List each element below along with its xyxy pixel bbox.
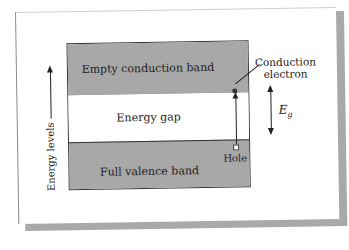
- diagram-stage: Energy levels Empty conduction band Ener…: [0, 0, 349, 250]
- gap-energy-label: Eg: [278, 103, 292, 120]
- hole-label: Hole: [223, 152, 247, 163]
- energy-gap: Energy gap: [68, 92, 249, 142]
- valence-band: Full valence band: [69, 139, 250, 189]
- energy-gap-label: Energy gap: [116, 110, 180, 124]
- conduction-electron-line2: electron: [255, 67, 316, 80]
- hole-marker-icon: [233, 144, 239, 150]
- energy-up-arrow-icon: [50, 68, 52, 118]
- valence-band-label: Full valence band: [100, 164, 199, 179]
- energy-axis-label: Energy levels: [45, 122, 57, 191]
- band-diagram: Empty conduction band Energy gap Full va…: [66, 40, 250, 190]
- electron-dot-icon: [232, 89, 237, 94]
- diagram-card: Energy levels Empty conduction band Ener…: [15, 7, 339, 224]
- conduction-band-label: Empty conduction band: [81, 61, 214, 76]
- gap-subscript: g: [287, 110, 292, 119]
- gap-symbol: E: [278, 103, 287, 117]
- gap-double-arrow-icon: [270, 87, 272, 133]
- conduction-electron-label: Conduction electron: [255, 55, 317, 80]
- conduction-electron-line1: Conduction: [255, 55, 316, 68]
- conduction-band: Empty conduction band: [68, 41, 249, 96]
